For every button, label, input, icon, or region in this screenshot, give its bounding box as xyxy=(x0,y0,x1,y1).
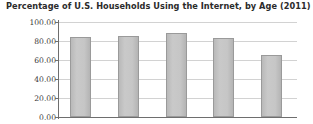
y-axis-tick-label: 0.00 xyxy=(39,113,56,122)
bar xyxy=(213,38,234,117)
chart-title: Percentage of U.S. Households Using the … xyxy=(6,1,310,11)
bar xyxy=(70,37,91,117)
y-axis-labels: 100.0080.0060.0040.0020.000.00 xyxy=(0,22,56,117)
y-axis-tick-label: 40.00 xyxy=(34,75,56,84)
bar xyxy=(118,36,139,117)
y-axis-tick-label: 20.00 xyxy=(34,94,56,103)
x-axis-line xyxy=(58,117,297,118)
bar xyxy=(166,33,187,117)
y-axis-tick-label: 60.00 xyxy=(34,56,56,65)
y-axis-tick-label: 80.00 xyxy=(34,37,56,46)
bar-series xyxy=(59,22,297,117)
chart-container: Percentage of U.S. Households Using the … xyxy=(0,0,313,124)
bar xyxy=(261,55,282,117)
y-axis-tick-label: 100.00 xyxy=(29,18,56,27)
